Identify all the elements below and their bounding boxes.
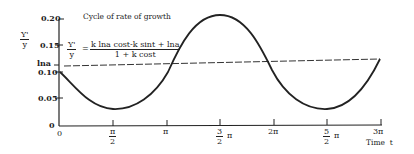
lna-dashed-line [64, 59, 380, 66]
formula-lhs: Y' y [67, 40, 76, 59]
x-tick-suffix: π [227, 131, 232, 140]
y-axis-label: Y' y [20, 30, 29, 49]
x-axis-label: Time t [366, 138, 393, 147]
chart-canvas [0, 0, 414, 154]
x-tick-label: 0 [57, 129, 62, 138]
formula-equals: = [82, 44, 89, 53]
x-tick-label: 3 2 [216, 127, 223, 146]
chart-title: Cycle of rate of growth [83, 12, 171, 21]
y-tick-label: 0.05 [38, 94, 57, 103]
y-tick-label: 0 [49, 121, 55, 130]
growth-rate-curve [60, 15, 380, 109]
x-tick-label: π [163, 127, 168, 136]
formula-rhs: k lna cost-k sint + lna 1 + k cost [90, 40, 180, 59]
x-tick-label: 3π [373, 127, 383, 136]
x-tick-label: 5 2 [323, 127, 330, 146]
x-tick-suffix: π [334, 131, 339, 140]
x-tick-label: 2π [268, 127, 278, 136]
x-tick-label: π 2 [109, 127, 116, 146]
x-axis [59, 125, 382, 126]
y-tick-label: 0.10 [38, 68, 57, 77]
y-tick-label: 0.15 [40, 41, 59, 50]
y-tick-label: 0.20 [41, 14, 60, 23]
